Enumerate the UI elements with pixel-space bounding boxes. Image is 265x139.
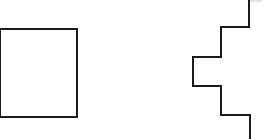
rectangle-shape (0, 29, 77, 117)
diagram-canvas (0, 0, 265, 139)
stepped-line-shape (193, 0, 250, 139)
